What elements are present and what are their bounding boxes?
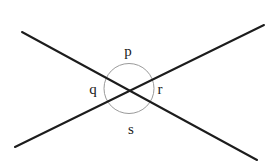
angle-label-r: r — [158, 82, 163, 97]
angle-label-p: p — [124, 44, 132, 59]
angle-label-q: q — [89, 82, 97, 97]
figure-canvas — [0, 0, 269, 166]
figure-background — [0, 0, 269, 166]
angle-label-s: s — [128, 122, 134, 137]
geometry-figure: p q r s — [0, 0, 269, 166]
